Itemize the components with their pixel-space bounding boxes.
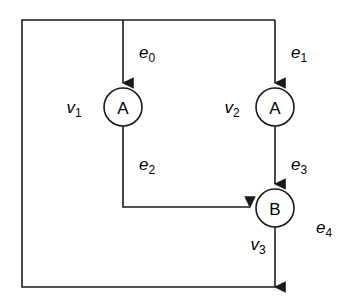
node-v1-label: A [117, 99, 129, 118]
edge-label-e1: e1 [291, 43, 307, 65]
node-v2-label: A [269, 99, 281, 118]
edge-label-e3: e3 [291, 155, 307, 177]
graph-diagram: A A B e0 e1 e2 e3 e4 v1 v2 v3 [0, 0, 351, 305]
node-v3-label: B [269, 200, 280, 219]
vertex-label-v3: v3 [250, 235, 266, 257]
vertex-label-v1: v1 [66, 98, 82, 120]
edge-label-e0: e0 [139, 43, 155, 65]
edge-label-e2: e2 [139, 155, 155, 177]
edge-label-e4: e4 [316, 218, 332, 240]
vertex-label-v2: v2 [224, 98, 240, 120]
graph-canvas: A A B e0 e1 e2 e3 e4 v1 v2 v3 [0, 0, 351, 305]
